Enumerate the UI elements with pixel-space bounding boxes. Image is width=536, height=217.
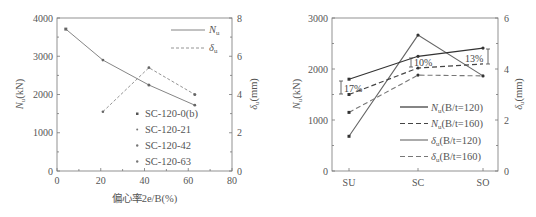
right-chart: 0 1000 2000 3000 0 2 4 6 SU SC SO Nu(kN)… [291, 13, 526, 189]
right-ytick-0: 0 [323, 166, 328, 177]
left-ytick-2000: 2000 [33, 89, 53, 100]
right-nu160-line [349, 64, 483, 95]
left-y2tick-2: 2 [237, 127, 242, 138]
left-ytick-1000: 1000 [33, 127, 53, 138]
annotation-17pct: 17% [344, 83, 362, 94]
left-nu-line [66, 29, 195, 105]
right-xtick-sc: SC [412, 177, 425, 188]
left-y2-axis-label: δu(mm) [248, 78, 261, 110]
left-xtick-40: 40 [140, 175, 150, 186]
right-y2tick-4: 4 [504, 64, 509, 75]
right-y2-axis-label: δu(mm) [513, 78, 526, 110]
left-delta-markers [102, 66, 197, 113]
left-ytick-3000: 3000 [33, 51, 53, 62]
left-x-axis-label: 偏心率2e/B(%) [112, 192, 178, 205]
left-y2tick-0: 0 [237, 166, 242, 177]
left-y2tick-4: 4 [237, 89, 242, 100]
specimen-0b-marker [136, 113, 139, 116]
left-y-axis-label: Nu(kN) [14, 78, 27, 110]
legend-delta120-label: δu(B/t=120) [431, 135, 481, 148]
specimen-42-marker [136, 144, 138, 146]
left-y2tick-8: 8 [237, 13, 242, 24]
right-y-axis-label: Nu(kN) [291, 78, 304, 110]
specimen-21-marker [136, 129, 138, 131]
legend-delta-label: δu [209, 42, 218, 55]
annotation-13pct: 13% [465, 53, 483, 64]
right-ytick-1000: 1000 [308, 115, 328, 126]
right-y2tick-0: 0 [504, 166, 509, 177]
left-y2tick-6: 6 [237, 51, 242, 62]
right-xtick-su: SU [343, 177, 357, 188]
legend-specimen-21: SC-120-21 [145, 124, 191, 135]
right-xtick-so: SO [477, 177, 490, 188]
right-ticks [332, 18, 498, 171]
left-xtick-20: 20 [96, 175, 106, 186]
left-xtick-0: 0 [55, 175, 60, 186]
legend-delta160-label: δu(B/t=160) [431, 151, 481, 164]
figure-canvas: 0 1000 2000 3000 4000 0 2 4 6 8 0 20 40 … [0, 0, 536, 217]
legend-nu160-label: Nu(B/t=160) [430, 118, 484, 131]
left-xtick-80: 80 [227, 175, 237, 186]
right-ytick-3000: 3000 [308, 13, 328, 24]
right-y2tick-2: 2 [504, 115, 509, 126]
left-xtick-60: 60 [183, 175, 193, 186]
legend-specimen-42: SC-120-42 [145, 140, 191, 151]
left-delta-line [103, 68, 195, 112]
specimen-63-marker [136, 160, 138, 162]
left-ytick-0: 0 [48, 166, 53, 177]
left-chart: 0 1000 2000 3000 4000 0 2 4 6 8 0 20 40 … [14, 13, 261, 206]
right-plot-frame [332, 18, 498, 171]
left-nu-markers [64, 28, 196, 107]
left-ytick-4000: 4000 [33, 13, 53, 24]
right-ytick-2000: 2000 [308, 64, 328, 75]
legend-specimen-0b: SC-120-0(b) [145, 108, 199, 120]
right-y2tick-6: 6 [504, 13, 509, 24]
legend-nu-label: Nu [208, 24, 220, 37]
legend-nu120-label: Nu(B/t=120) [430, 102, 484, 115]
annotation-10pct: 10% [414, 57, 432, 68]
legend-specimen-63: SC-120-63 [145, 156, 191, 167]
